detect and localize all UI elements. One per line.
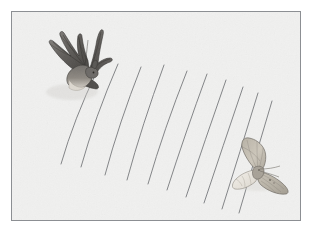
paper-grain-overlay [12, 12, 300, 220]
illustration-canvas: Bat echolocating a moth A dark bat at up… [12, 12, 300, 220]
illustration-frame: Bat echolocating a moth A dark bat at up… [11, 11, 301, 221]
illustration-stage: Bat echolocating a moth A dark bat at up… [0, 0, 312, 232]
bat-moth-echolocation-artwork [12, 12, 300, 220]
